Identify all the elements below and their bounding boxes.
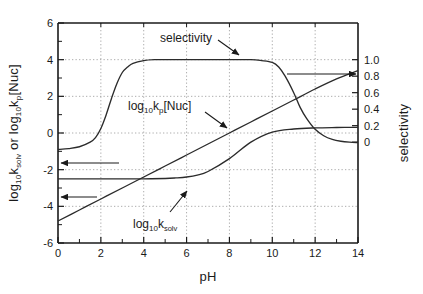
ytick-labels-right: 1.0 0.8 0.6 0.4 0.2 0 <box>364 54 379 149</box>
ytick-label-left: -6 <box>43 237 53 249</box>
xtick-label: 10 <box>266 247 278 259</box>
label-selectivity: selectivity <box>160 31 212 45</box>
xtick-label: 8 <box>226 247 232 259</box>
ytick-label-left: -2 <box>43 164 53 176</box>
ytick-label-right: 0.6 <box>364 87 379 99</box>
xtick-label: 2 <box>98 247 104 259</box>
x-axis-title: pH <box>199 269 216 284</box>
ksolv-sub-solv: solv <box>164 224 178 233</box>
kp-nuc: [Nuc] <box>163 99 191 113</box>
y-axis-title-right: selectivity <box>396 103 411 162</box>
xtick-label: 4 <box>141 247 147 259</box>
xtick-label: 14 <box>352 247 364 259</box>
xtick-labels: 0 2 4 6 8 10 12 14 <box>55 247 364 259</box>
y-left-log1: log <box>6 184 21 202</box>
xtick-label: 0 <box>55 247 61 259</box>
svg-text:log10ksolv or log10kp[Nuc]: log10ksolv or log10kp[Nuc] <box>6 64 23 202</box>
ytick-label-left: -4 <box>43 200 53 212</box>
ytick-labels-left: 6 4 2 0 -2 -4 -6 <box>43 17 53 249</box>
xtick-label: 12 <box>309 247 321 259</box>
ytick-label-left: 4 <box>47 54 53 66</box>
chart-figure: 0 2 4 6 8 10 12 14 6 4 2 0 -2 -4 -6 1.0 … <box>0 0 423 294</box>
ytick-label-right: 0.2 <box>364 120 379 132</box>
ytick-label-right: 0.4 <box>364 103 379 115</box>
y-left-nuc: [Nuc] <box>6 64 21 95</box>
plot-area-background <box>58 23 358 243</box>
y-left-sub-10b: 10 <box>14 107 23 117</box>
kp-log: log <box>128 99 144 113</box>
ksolv-log: log <box>133 217 149 231</box>
y-axis-title-left: log10ksolv or log10kp[Nuc] <box>6 64 23 202</box>
ytick-label-left: 6 <box>47 17 53 29</box>
plot-canvas: 0 2 4 6 8 10 12 14 6 4 2 0 -2 -4 -6 1.0 … <box>0 0 423 294</box>
y-left-or: or log <box>6 116 21 154</box>
xtick-label: 6 <box>184 247 190 259</box>
ytick-label-left: 2 <box>47 90 53 102</box>
ytick-label-right: 0 <box>364 136 370 148</box>
ytick-label-right: 1.0 <box>364 54 379 66</box>
ytick-label-right: 0.8 <box>364 70 379 82</box>
y-left-sub-solv: solv <box>14 154 23 168</box>
y-left-sub-10a: 10 <box>14 174 23 184</box>
ytick-label-left: 0 <box>47 127 53 139</box>
